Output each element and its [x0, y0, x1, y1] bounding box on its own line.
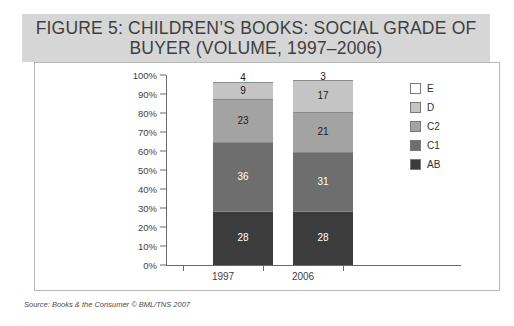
- page-title: FIGURE 5: CHILDREN’S BOOKS: SOCIAL GRADE…: [22, 18, 490, 58]
- bar-segment-c1[interactable]: 31: [293, 153, 353, 212]
- legend-swatch-icon: [410, 83, 421, 94]
- legend-item-ab[interactable]: AB: [410, 155, 490, 174]
- bar-segment-value: 9: [240, 86, 246, 96]
- legend-swatch-icon: [410, 121, 421, 132]
- y-axis-tick-label: 20%: [138, 222, 157, 233]
- bar-segment-value: 31: [317, 177, 328, 187]
- x-axis-category-label: 1997: [183, 271, 263, 282]
- legend-item-label: E: [427, 83, 434, 94]
- bar-segment-value: 28: [317, 233, 328, 243]
- y-axis-tick-label: 50%: [138, 165, 157, 176]
- y-axis-tick-label: 60%: [138, 146, 157, 157]
- bar-segment-value: 36: [237, 172, 248, 182]
- chart-legend: EDC2C1AB: [410, 79, 490, 174]
- bar-segment-ab[interactable]: 28: [293, 212, 353, 265]
- bar-segment-c2[interactable]: 23: [213, 100, 273, 144]
- bar-segment-value: 21: [317, 127, 328, 137]
- legend-item-label: C1: [427, 140, 440, 151]
- stacked-bar[interactable]: 317213128: [293, 75, 353, 265]
- bar-segment-e[interactable]: 4: [213, 75, 273, 83]
- y-axis-labels: 0%10%20%30%40%50%60%70%80%90%100%: [113, 75, 157, 265]
- x-axis-line: [166, 265, 461, 266]
- bar-segment-d[interactable]: 9: [213, 83, 273, 100]
- bar-segment-c1[interactable]: 36: [213, 143, 273, 211]
- legend-swatch-icon: [410, 140, 421, 151]
- legend-item-label: D: [427, 102, 434, 113]
- bar-segment-value: 17: [317, 91, 328, 101]
- legend-item-c1[interactable]: C1: [410, 136, 490, 155]
- y-axis-tick-label: 40%: [138, 184, 157, 195]
- y-axis-tick-label: 10%: [138, 241, 157, 252]
- legend-item-label: AB: [427, 159, 440, 170]
- legend-item-label: C2: [427, 121, 440, 132]
- y-axis-tick-label: 30%: [138, 203, 157, 214]
- bar-segment-value: 28: [237, 233, 248, 243]
- y-axis-tick-label: 0%: [143, 260, 157, 271]
- plot-area: 0%10%20%30%40%50%60%70%80%90%100% 492336…: [35, 63, 501, 292]
- legend-swatch-icon: [410, 102, 421, 113]
- y-axis-tick-label: 80%: [138, 108, 157, 119]
- bar-segment-d[interactable]: 17: [293, 81, 353, 113]
- legend-swatch-icon: [410, 159, 421, 170]
- stacked-bar[interactable]: 49233628: [213, 75, 273, 265]
- bar-segment-c2[interactable]: 21: [293, 113, 353, 153]
- legend-item-d[interactable]: D: [410, 98, 490, 117]
- figure-container: FIGURE 5: CHILDREN’S BOOKS: SOCIAL GRADE…: [0, 0, 514, 326]
- y-axis-tick-label: 100%: [133, 70, 157, 81]
- x-axis-category-labels: 19972006: [166, 271, 461, 287]
- legend-item-c2[interactable]: C2: [410, 117, 490, 136]
- x-axis-category-label: 2006: [263, 271, 343, 282]
- y-axis-tick-label: 70%: [138, 127, 157, 138]
- legend-item-e[interactable]: E: [410, 79, 490, 98]
- bar-segment-value: 23: [237, 116, 248, 126]
- bar-segment-ab[interactable]: 28: [213, 212, 273, 265]
- y-axis-tick-label: 90%: [138, 89, 157, 100]
- figure-title-banner: FIGURE 5: CHILDREN’S BOOKS: SOCIAL GRADE…: [22, 14, 490, 62]
- source-note: Source: Books & the Consumer © BML/TNS 2…: [24, 300, 190, 309]
- chart-panel: 0%10%20%30%40%50%60%70%80%90%100% 492336…: [34, 62, 500, 291]
